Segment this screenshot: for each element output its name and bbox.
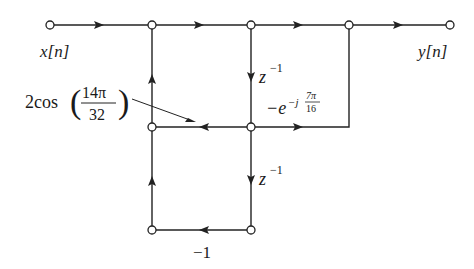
nodes — [46, 21, 454, 234]
node-m1 — [148, 123, 156, 131]
node-b1 — [148, 226, 156, 234]
node-m2 — [247, 123, 255, 131]
cos-coef-den: 32 — [89, 106, 105, 123]
node-output — [446, 21, 454, 29]
signal-flow-graph: x[n] y[n] 2cos ( 14π 32 ) z −1 −e −j 7π … — [0, 0, 474, 269]
node-n2 — [247, 21, 255, 29]
delay-top-exponent: −1 — [270, 61, 283, 75]
delay-top-label: z — [258, 67, 266, 87]
input-label: x[n] — [39, 42, 69, 61]
exp-coef-base: −e — [266, 98, 286, 118]
labels: x[n] y[n] 2cos ( 14π 32 ) z −1 −e −j 7π … — [25, 42, 447, 262]
node-input — [46, 21, 54, 29]
delay-bottom-exponent: −1 — [270, 163, 283, 177]
cos-label-pointer — [132, 99, 190, 120]
cos-coef-rparen: ) — [118, 83, 129, 121]
node-n1 — [148, 21, 156, 29]
delay-bottom-label: z — [258, 169, 266, 189]
neg-one-gain-label: −1 — [193, 243, 211, 262]
output-label: y[n] — [416, 42, 447, 61]
cos-coef-lparen: ( — [70, 83, 81, 121]
cos-coef-num: 14π — [82, 84, 106, 101]
exp-coef-sup: −j — [288, 96, 298, 108]
cos-coef-prefix: 2cos — [25, 92, 58, 112]
node-n3 — [345, 21, 353, 29]
exp-coef-den: 16 — [306, 103, 316, 114]
exp-coef-num: 7π — [306, 90, 317, 101]
node-b2 — [247, 226, 255, 234]
